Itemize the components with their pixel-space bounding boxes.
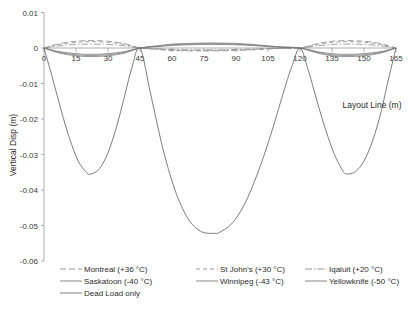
legend-label: Saskatoon (-40 °C)	[84, 277, 152, 286]
legend-label: St John's (+30 °C)	[220, 265, 285, 274]
y-tick-label: 0.01	[22, 9, 38, 18]
legend-label: Iqaluit (+20 °C)	[329, 265, 383, 274]
y-tick-label: -0.06	[20, 257, 39, 266]
y-tick-label: 0	[34, 44, 39, 53]
x-tick-label: 75	[200, 54, 209, 63]
x-tick-label: 105	[261, 54, 275, 63]
x-axis-title: Layout Line (m)	[342, 100, 401, 110]
legend-label: Winnipeg (-43 °C)	[220, 277, 284, 286]
legend-label: Montreal (+36 °C)	[84, 265, 148, 274]
series-line-montreal-36-c	[44, 41, 396, 51]
y-tick-label: -0.03	[20, 151, 39, 160]
y-tick-label: -0.05	[20, 222, 39, 231]
y-axis-title: Vertical Disp (m)	[8, 114, 18, 177]
legend-label: Yellowknife (-50 °C)	[329, 277, 399, 286]
x-tick-label: 60	[168, 54, 177, 63]
y-tick-label: -0.01	[20, 80, 39, 89]
chart-container: 0.010-0.01-0.02-0.03-0.04-0.05-0.0601530…	[0, 0, 415, 317]
x-tick-label: 90	[232, 54, 241, 63]
y-tick-label: -0.04	[20, 186, 39, 195]
x-tick-label: 165	[389, 54, 403, 63]
series-line-dead-load-only	[44, 47, 396, 233]
y-tick-label: -0.02	[20, 115, 39, 124]
legend-label: Dead Load only	[84, 289, 140, 298]
deflection-line-chart: 0.010-0.01-0.02-0.03-0.04-0.05-0.0601530…	[0, 0, 415, 317]
series-line-iqaluit-20-c	[44, 44, 396, 50]
